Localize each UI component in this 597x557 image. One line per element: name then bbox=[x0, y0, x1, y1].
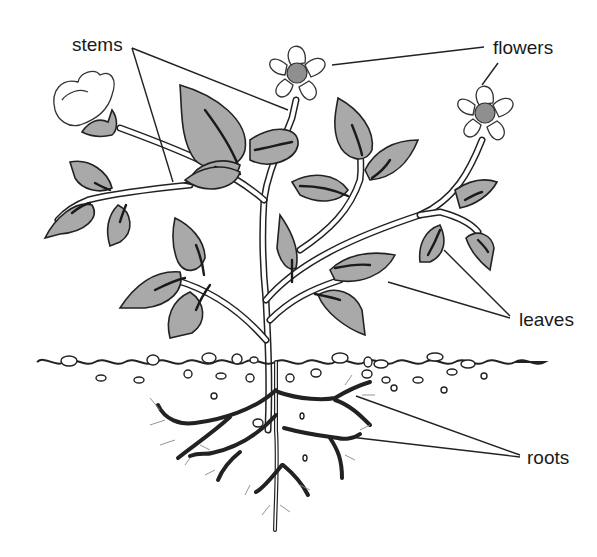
flower-right bbox=[458, 86, 513, 139]
roots-label: roots bbox=[527, 448, 569, 467]
leaf bbox=[173, 218, 205, 270]
plant-diagram bbox=[0, 0, 597, 557]
leaf bbox=[185, 167, 240, 189]
flower-center bbox=[270, 46, 325, 99]
stems-label: stems bbox=[72, 35, 123, 54]
roots-pointer bbox=[350, 437, 520, 457]
soil-surface bbox=[37, 353, 545, 461]
leaf bbox=[168, 292, 202, 338]
flowers-label: flowers bbox=[493, 38, 553, 57]
leaves-pointer bbox=[388, 282, 510, 318]
leaves-label: leaves bbox=[519, 310, 574, 329]
roots-pointer bbox=[356, 396, 520, 455]
stems-pointer bbox=[132, 48, 173, 182]
flowers-pointer bbox=[482, 63, 498, 85]
flowers-pointer bbox=[332, 47, 484, 65]
leaf bbox=[277, 215, 297, 269]
leaf bbox=[45, 204, 94, 238]
flower-bud bbox=[54, 71, 117, 136]
root-system bbox=[150, 362, 375, 530]
leaf bbox=[120, 272, 181, 308]
leaf bbox=[108, 205, 130, 246]
leaves-pointer bbox=[444, 250, 510, 316]
leaf bbox=[70, 161, 112, 190]
leaf bbox=[466, 233, 494, 270]
